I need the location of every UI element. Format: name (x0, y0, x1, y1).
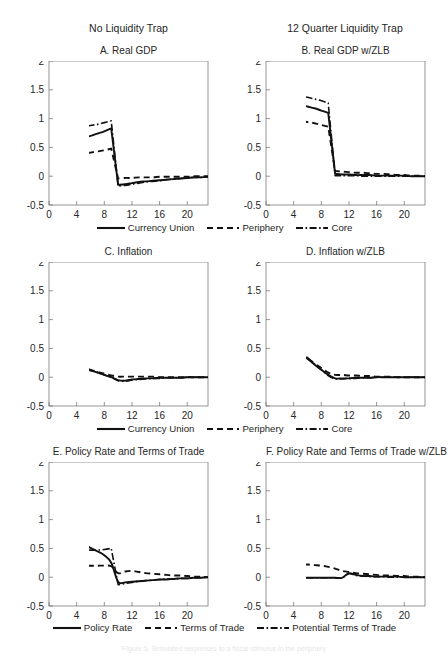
plot-frame (266, 61, 425, 205)
legend-swatch-dashdot (295, 424, 329, 434)
legend-swatch-solid (52, 623, 82, 633)
y-tick-label: 2 (255, 61, 261, 67)
x-tick-label: 20 (182, 209, 194, 220)
x-tick-label: 4 (74, 410, 80, 421)
x-tick-label: 0 (263, 410, 269, 421)
legend-label: Core (331, 423, 352, 434)
y-tick-label: 1 (255, 113, 261, 124)
x-tick-label: 8 (319, 209, 325, 220)
x-tick-label: 0 (46, 610, 52, 621)
y-tick-label: 2 (38, 61, 44, 67)
legend-swatch-solid (96, 223, 126, 233)
x-tick-label: 16 (371, 610, 383, 621)
x-tick-label: 20 (182, 410, 194, 421)
x-tick-label: 20 (399, 209, 411, 220)
x-tick-label: 12 (126, 209, 138, 220)
legend-row-gdp: Currency UnionPeripheryCore (0, 222, 448, 233)
legend-row-policy: Policy RateTerms of TradePotential Terms… (0, 622, 448, 633)
x-tick-label: 12 (343, 209, 355, 220)
column-header-right: 12 Quarter Liquidity Trap (266, 22, 424, 34)
y-tick-label: 1 (38, 514, 44, 525)
x-tick-label: 16 (154, 410, 166, 421)
x-tick-label: 0 (46, 209, 52, 220)
chart-title-a: A. Real GDP (49, 45, 208, 56)
y-tick-label: 0.5 (247, 343, 261, 354)
y-tick-label: 1.5 (30, 84, 44, 95)
chart-panel-e: E. Policy Rate and Terms of Trade21.510.… (9, 446, 216, 624)
series-line-periphery (49, 149, 208, 179)
legend-item-core: Core (295, 423, 352, 434)
legend-label: Terms of Trade (180, 622, 244, 633)
x-tick-label: 4 (74, 610, 80, 621)
x-tick-label: 12 (343, 410, 355, 421)
x-tick-label: 12 (126, 610, 138, 621)
y-tick-label: -0.5 (27, 200, 45, 211)
column-header-left: No Liquidity Trap (49, 22, 208, 34)
plot-frame (266, 462, 425, 606)
x-tick-label: 8 (319, 410, 325, 421)
series-line-potential-terms-of-trade (49, 543, 208, 585)
series-line-periphery (266, 333, 425, 377)
legend-label: Periphery (242, 423, 283, 434)
y-tick-label: 0.5 (30, 543, 44, 554)
chart-panel-d: D. Inflation w/ZLB21.510.50-0.5048121620 (226, 246, 433, 424)
x-tick-label: 12 (126, 410, 138, 421)
legend-label: Periphery (242, 222, 283, 233)
chart-title-b: B. Real GDP w/ZLB (266, 45, 425, 56)
y-tick-label: 1.5 (30, 485, 44, 496)
series-line-periphery (266, 120, 425, 176)
chart-title-c: C. Inflation (49, 246, 208, 257)
plot-a: 21.510.50-0.5048121620 (9, 61, 216, 239)
legend-row-inflation: Currency UnionPeripheryCore (0, 423, 448, 434)
series-line-core (266, 321, 425, 379)
x-tick-label: 0 (46, 410, 52, 421)
x-tick-label: 4 (291, 610, 297, 621)
x-tick-label: 16 (371, 410, 383, 421)
legend-label: Currency Union (128, 423, 195, 434)
y-tick-label: 0 (38, 372, 44, 383)
x-tick-label: 16 (154, 209, 166, 220)
x-tick-label: 4 (291, 410, 297, 421)
chart-panel-a: A. Real GDP21.510.50-0.5048121620 (9, 45, 216, 223)
chart-panel-b: B. Real GDP w/ZLB21.510.50-0.5048121620 (226, 45, 433, 223)
legend-item-currency-union: Currency Union (96, 423, 195, 434)
y-tick-label: 0 (255, 171, 261, 182)
y-tick-label: -0.5 (27, 601, 45, 612)
y-tick-label: 2 (255, 462, 261, 468)
legend-swatch-dashdot (256, 623, 290, 633)
y-tick-label: 2 (38, 262, 44, 268)
x-tick-label: 20 (399, 610, 411, 621)
plot-f: 21.510.50-0.5048121620 (226, 462, 433, 640)
chart-panel-c: C. Inflation21.510.50-0.5048121620 (9, 246, 216, 424)
legend-item-potential-terms-of-trade: Potential Terms of Trade (256, 622, 396, 633)
y-tick-label: 0 (38, 572, 44, 583)
x-tick-label: 12 (343, 610, 355, 621)
legend-swatch-dashed (206, 223, 240, 233)
y-tick-label: 1.5 (247, 84, 261, 95)
legend-item-periphery: Periphery (206, 423, 283, 434)
figure-caption: Figure 5. Simulated responses to a fisca… (0, 645, 448, 652)
plot-b: 21.510.50-0.5048121620 (226, 61, 433, 239)
series-line-currency-union (266, 324, 425, 378)
x-tick-label: 8 (319, 610, 325, 621)
x-tick-label: 16 (154, 610, 166, 621)
x-tick-label: 8 (102, 410, 108, 421)
y-tick-label: 0.5 (247, 543, 261, 554)
y-tick-label: -0.5 (244, 200, 262, 211)
x-tick-label: 8 (102, 610, 108, 621)
y-tick-label: 1 (38, 314, 44, 325)
legend-label: Potential Terms of Trade (292, 622, 396, 633)
legend-swatch-dashdot (295, 223, 329, 233)
chart-panel-f: F. Policy Rate and Terms of Trade w/ZLB2… (226, 446, 433, 624)
legend-item-periphery: Periphery (206, 222, 283, 233)
y-tick-label: 0.5 (247, 142, 261, 153)
series-line-terms-of-trade (49, 566, 208, 578)
series-line-periphery (49, 367, 208, 377)
chart-title-e: E. Policy Rate and Terms of Trade (49, 446, 208, 457)
legend-label: Currency Union (128, 222, 195, 233)
x-tick-label: 0 (263, 610, 269, 621)
x-tick-label: 4 (74, 209, 80, 220)
plot-frame (49, 262, 208, 406)
plot-frame (266, 262, 425, 406)
y-tick-label: 1.5 (247, 485, 261, 496)
